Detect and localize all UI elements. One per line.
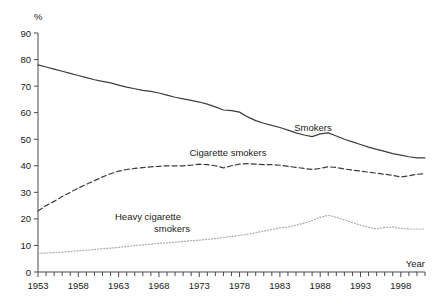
- y-tick-label: 0: [26, 267, 31, 278]
- x-tick-label: 1988: [310, 280, 331, 291]
- x-tick-label: 1968: [148, 280, 169, 291]
- series-annotation-1: Cigarette smokers: [189, 147, 266, 158]
- series-line-0: [38, 65, 425, 158]
- series-annotation-0: Smokers: [294, 122, 332, 133]
- y-tick-label: 90: [20, 28, 31, 39]
- x-tick-label: 1983: [269, 280, 290, 291]
- chart-canvas: % Year 0102030405060708090 1953195819631…: [0, 0, 432, 305]
- series-annotation-2: Heavy cigarette: [115, 211, 181, 222]
- y-tick-label: 70: [20, 81, 31, 92]
- x-tick-label: 1993: [350, 280, 371, 291]
- y-tick-label: 60: [20, 107, 31, 118]
- series-lines: [38, 65, 425, 254]
- series-line-2: [38, 215, 425, 253]
- y-axis-unit-label: %: [34, 11, 43, 22]
- series-annotation-3: smokers: [154, 223, 190, 234]
- x-tick-label: 1953: [27, 280, 48, 291]
- x-tick-label: 1963: [108, 280, 129, 291]
- x-tick-label: 1973: [189, 280, 210, 291]
- x-tick-label: 1998: [390, 280, 411, 291]
- x-axis-ticks: 1953195819631968197319781983198819931998: [27, 272, 425, 291]
- y-tick-label: 20: [20, 213, 31, 224]
- series-line-1: [38, 164, 425, 211]
- series-annotations: SmokersCigarette smokersHeavy cigarettes…: [115, 122, 332, 234]
- x-tick-label: 1958: [68, 280, 89, 291]
- y-tick-label: 40: [20, 160, 31, 171]
- y-tick-label: 30: [20, 187, 31, 198]
- y-tick-label: 10: [20, 240, 31, 251]
- y-tick-label: 80: [20, 54, 31, 65]
- x-axis-title: Year: [406, 258, 425, 269]
- smoking-prevalence-chart: % Year 0102030405060708090 1953195819631…: [0, 0, 432, 305]
- y-tick-label: 50: [20, 134, 31, 145]
- y-axis-ticks: 0102030405060708090: [20, 28, 38, 278]
- x-tick-label: 1978: [229, 280, 250, 291]
